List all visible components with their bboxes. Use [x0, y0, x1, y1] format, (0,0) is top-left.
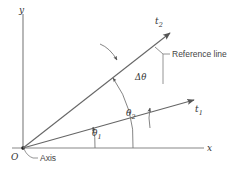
t2-label: t2: [155, 16, 163, 29]
theta2-angle: θ2: [113, 78, 136, 148]
delta-theta-angle: Δθ: [100, 44, 150, 128]
reference-line: Reference line: [155, 47, 227, 84]
axis-callout-label: Axis: [40, 153, 56, 163]
y-axis-label: y: [18, 5, 25, 15]
vector-t1: t1: [23, 100, 203, 148]
x-axis: x: [12, 143, 212, 153]
origin-label: O: [11, 152, 19, 162]
delta-theta-label: Δθ: [134, 72, 146, 82]
theta1-angle: θ1: [92, 127, 102, 148]
t1-label: t1: [195, 104, 203, 117]
origin: O Axis: [11, 146, 56, 163]
axis-callout-leader: [24, 149, 38, 158]
x-axis-label: x: [207, 143, 212, 153]
angular-displacement-diagram: y x O Axis t2 t1 Reference line θ1: [0, 0, 245, 170]
y-axis: y: [18, 5, 25, 150]
theta1-label: θ1: [92, 128, 102, 141]
reference-line-label: Reference line: [172, 49, 227, 59]
